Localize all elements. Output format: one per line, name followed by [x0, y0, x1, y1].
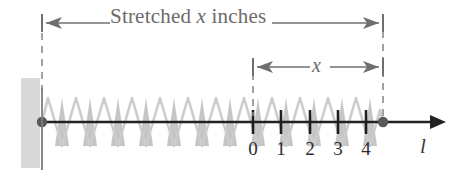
stretched-label-suffix: inches — [206, 4, 266, 28]
stretched-label-variable: x — [197, 4, 207, 28]
spring-stretch-diagram: Stretched x inches x l 0 1 2 3 4 — [0, 0, 458, 173]
tick-label-0: 0 — [243, 139, 263, 158]
stretched-length-label: Stretched x inches — [110, 6, 266, 27]
tick-label-2: 2 — [300, 139, 320, 158]
endpoint-dot-right — [378, 117, 388, 127]
tick-label-4: 4 — [356, 139, 376, 158]
stretched-label-prefix: Stretched — [110, 4, 197, 28]
inner-dimension-label: x — [312, 55, 321, 75]
tick-label-1: 1 — [271, 139, 291, 158]
axis-variable-label: l — [420, 136, 426, 157]
tick-label-3: 3 — [328, 139, 348, 158]
